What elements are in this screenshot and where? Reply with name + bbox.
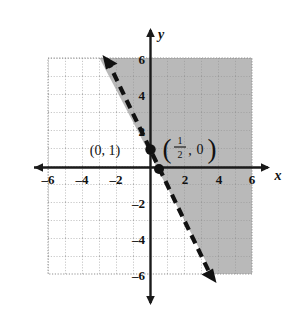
- label-comma: ,: [188, 143, 192, 158]
- label-zero: 0: [197, 142, 204, 157]
- x-tick-label-4: 4: [216, 172, 223, 187]
- x-axis-label: x: [274, 168, 282, 183]
- coordinate-plane-svg: –6 –4 –2 2 4 6 6 4 2 –2 –4 –6 x y (0, 1)…: [0, 0, 303, 325]
- x-tick-label-neg6: –6: [41, 172, 56, 187]
- x-tick-label-6: 6: [249, 172, 256, 187]
- x-tick-label-neg2: –2: [109, 172, 123, 187]
- y-tick-label-2: 2: [139, 124, 146, 139]
- point-label-0-1: (0, 1): [90, 143, 121, 159]
- label-open-paren: (: [163, 134, 172, 164]
- graph-figure: –6 –4 –2 2 4 6 6 4 2 –2 –4 –6 x y (0, 1)…: [0, 0, 303, 325]
- label-fraction-denominator: 2: [178, 149, 183, 160]
- label-fraction-numerator: 1: [178, 135, 183, 146]
- y-axis-label: y: [156, 27, 165, 42]
- y-tick-label-4: 4: [139, 88, 146, 103]
- svg-text:(0, 1): (0, 1): [90, 143, 121, 159]
- y-tick-label-6: 6: [139, 52, 146, 67]
- x-tick-label-2: 2: [182, 172, 189, 187]
- y-tick-label-neg4: –4: [131, 232, 146, 247]
- point-marker-half-0: [154, 164, 164, 174]
- point-marker-0-1: [145, 144, 155, 154]
- label-close-paren: ): [208, 134, 217, 164]
- y-tick-label-neg6: –6: [131, 268, 146, 283]
- x-tick-label-neg4: –4: [75, 172, 90, 187]
- y-tick-label-neg2: –2: [131, 196, 145, 211]
